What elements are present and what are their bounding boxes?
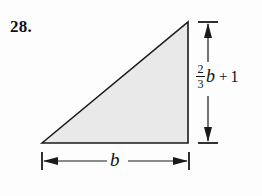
base-dimension-label: b [107,150,123,170]
triangle-diagram [0,0,262,196]
base-arrowhead-right [173,157,188,165]
fraction-numerator: 2 [197,63,205,75]
plus-operator: + [219,68,227,85]
base-arrowhead-left [43,157,58,165]
height-arrowhead-up [204,23,212,38]
height-variable: b [206,66,215,87]
triangle-shape [42,22,188,143]
height-dimension-label: 2 3 b + 1 [196,62,238,91]
figure-page: 28. 2 3 b [0,0,262,196]
fraction-denominator: 3 [197,78,205,90]
height-constant: 1 [230,68,238,86]
height-arrowhead-down [204,127,212,142]
fraction-two-thirds: 2 3 [196,63,205,90]
